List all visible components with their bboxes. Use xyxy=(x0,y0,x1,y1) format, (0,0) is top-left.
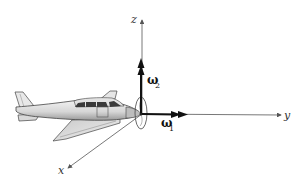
x-axis-label: x xyxy=(58,164,65,177)
omega-2-vector xyxy=(138,58,145,113)
svg-text:1: 1 xyxy=(169,124,174,133)
window xyxy=(86,102,96,107)
svg-text:2: 2 xyxy=(155,81,160,90)
airplane xyxy=(15,91,141,141)
omega-1-label: ω 1 xyxy=(161,116,174,133)
airplane-rotation-diagram: z y x ω 2 ω 1 xyxy=(0,0,303,180)
y-axis-label: y xyxy=(283,109,291,122)
omega-2-label: ω 2 xyxy=(147,73,160,90)
z-axis-label: z xyxy=(130,13,137,26)
